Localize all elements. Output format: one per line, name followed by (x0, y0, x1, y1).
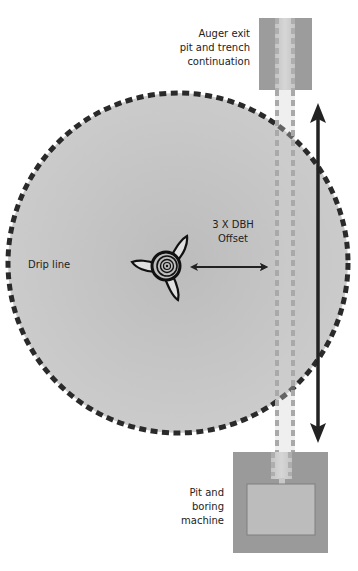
pit-label-line2: boring (181, 500, 224, 514)
auger-exit-label: Auger exit pit and trench continuation (180, 27, 250, 69)
tree-boring-diagram (0, 0, 358, 571)
offset-label-line1: 3 X DBH (210, 218, 256, 232)
offset-label-line2: Offset (210, 232, 256, 246)
drip-line-label: Drip line (28, 258, 70, 272)
drip-line-label-text: Drip line (28, 258, 70, 272)
pit-label-line3: machine (181, 514, 224, 528)
pit-label-line1: Pit and (181, 486, 224, 500)
boring-pit-label: Pit and boring machine (181, 486, 224, 528)
auger-exit-pit (259, 18, 312, 90)
offset-label: 3 X DBH Offset (210, 218, 256, 246)
boring-machine-box (247, 484, 315, 535)
auger-exit-label-line3: continuation (180, 55, 250, 69)
boring-pit (233, 452, 328, 553)
trench-corridor (275, 90, 295, 452)
auger-exit-label-line1: Auger exit (180, 27, 250, 41)
auger-exit-label-line2: pit and trench (180, 41, 250, 55)
trunk-pith (166, 265, 168, 267)
